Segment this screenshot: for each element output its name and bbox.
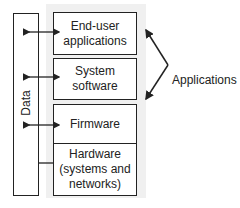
bidirectional-arrow-icon: [29, 32, 59, 163]
connectors: [0, 0, 240, 208]
applications-label: Applications: [172, 73, 237, 87]
bracket-arrow-icon: [146, 30, 168, 99]
